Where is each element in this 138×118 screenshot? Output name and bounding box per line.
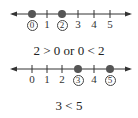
tick-label-5: 5 xyxy=(103,74,117,86)
tick-label-2: 2 xyxy=(55,74,69,85)
tick-label-1: 1 xyxy=(40,19,54,30)
tick-label-2: 2 xyxy=(55,19,69,31)
tick-label-4: 4 xyxy=(87,74,101,85)
expression-2: 3 < 5 xyxy=(0,99,138,113)
tick-label-0: 0 xyxy=(25,19,39,31)
tick-label-1: 1 xyxy=(40,74,54,85)
point-dot-3 xyxy=(74,65,82,73)
right-arrow-icon xyxy=(125,12,132,17)
tick-label-3: 3 xyxy=(71,19,85,30)
point-dot-5 xyxy=(106,65,114,73)
right-arrow-icon xyxy=(125,67,132,72)
left-arrow-icon xyxy=(10,67,17,72)
left-arrow-icon xyxy=(10,12,17,17)
point-dot-2 xyxy=(58,10,66,18)
number-line-2-axis xyxy=(0,55,138,85)
tick-label-3: 3 xyxy=(71,74,85,86)
tick-label-4: 4 xyxy=(87,19,101,30)
tick-label-0: 0 xyxy=(25,74,39,85)
point-dot-0 xyxy=(28,10,36,18)
tick-label-5: 5 xyxy=(103,19,117,30)
number-line-1-axis xyxy=(0,0,138,30)
number-line-1: 0 1 2 3 4 5 xyxy=(0,0,138,30)
number-line-2: 0 1 2 3 4 5 xyxy=(0,55,138,85)
